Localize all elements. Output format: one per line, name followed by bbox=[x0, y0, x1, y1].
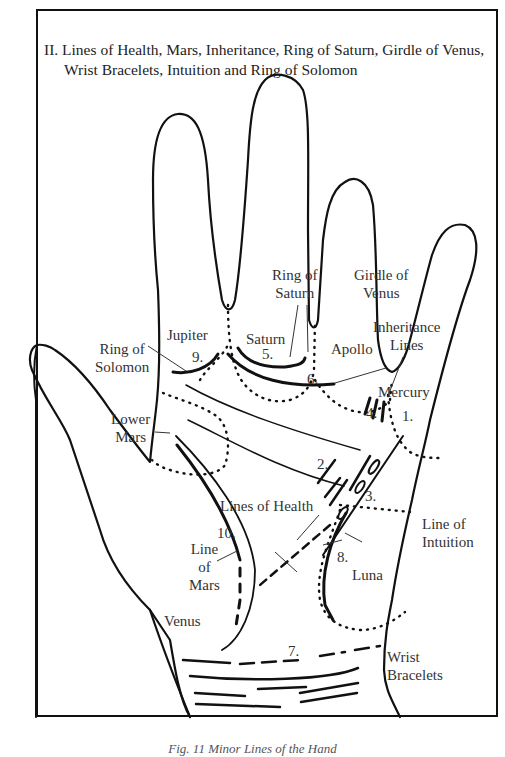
label-line-of-intuition: Line of Intuition bbox=[422, 515, 474, 551]
label-line-of-mars-line1: Line bbox=[189, 540, 220, 558]
marker-7: 7. bbox=[288, 642, 299, 660]
label-mercury: Mercury bbox=[378, 383, 430, 401]
marker-5: 5. bbox=[262, 345, 273, 363]
marker-6: 6. bbox=[307, 370, 318, 388]
label-girdle-of-venus: Girdle of Venus bbox=[354, 266, 409, 302]
label-venus: Venus bbox=[164, 612, 201, 630]
label-apollo: Apollo bbox=[331, 340, 373, 358]
marker-1: 1. bbox=[402, 407, 413, 425]
label-lower-mars: Lower Mars bbox=[111, 410, 150, 446]
label-line-of-mars-line2: of bbox=[189, 558, 220, 576]
label-wrist-bracelets: Wrist Bracelets bbox=[387, 648, 443, 684]
label-jupiter: Jupiter bbox=[167, 326, 208, 344]
label-lines-of-health: Lines of Health bbox=[220, 497, 313, 515]
label-line-of-intuition-line2: Intuition bbox=[422, 533, 474, 551]
label-inheritance-line2: Lines bbox=[373, 336, 440, 354]
label-ring-of-solomon: Ring of Solomon bbox=[95, 340, 149, 376]
label-line-of-intuition-line1: Line of bbox=[422, 515, 474, 533]
label-girdle-of-venus-line2: Venus bbox=[354, 284, 409, 302]
marker-3: 3. bbox=[365, 487, 376, 505]
label-ring-of-solomon-line1: Ring of bbox=[95, 340, 149, 358]
label-ring-of-saturn-line1: Ring of bbox=[272, 266, 317, 284]
label-line-of-mars-line3: Mars bbox=[189, 576, 220, 594]
marker-8: 8. bbox=[337, 548, 348, 566]
marker-10: 10. bbox=[217, 524, 236, 542]
label-line-of-mars: Line of Mars bbox=[189, 540, 220, 594]
label-ring-of-saturn: Ring of Saturn bbox=[272, 266, 317, 302]
label-ring-of-solomon-line2: Solomon bbox=[95, 358, 149, 376]
marker-2: 2. bbox=[317, 455, 328, 473]
marker-9: 9. bbox=[192, 348, 203, 366]
label-inheritance-line1: Inheritance bbox=[373, 318, 440, 336]
label-wrist-bracelets-line1: Wrist bbox=[387, 648, 443, 666]
label-girdle-of-venus-line1: Girdle of bbox=[354, 266, 409, 284]
label-wrist-bracelets-line2: Bracelets bbox=[387, 666, 443, 684]
label-lower-mars-line2: Mars bbox=[111, 428, 150, 446]
label-luna: Luna bbox=[352, 566, 383, 584]
label-lower-mars-line1: Lower bbox=[111, 410, 150, 428]
label-inheritance-lines: Inheritance Lines bbox=[373, 318, 440, 354]
marker-4: 4. bbox=[366, 404, 377, 422]
figure-caption: Fig. 11 Minor Lines of the Hand bbox=[0, 741, 505, 757]
label-ring-of-saturn-line2: Saturn bbox=[272, 284, 317, 302]
